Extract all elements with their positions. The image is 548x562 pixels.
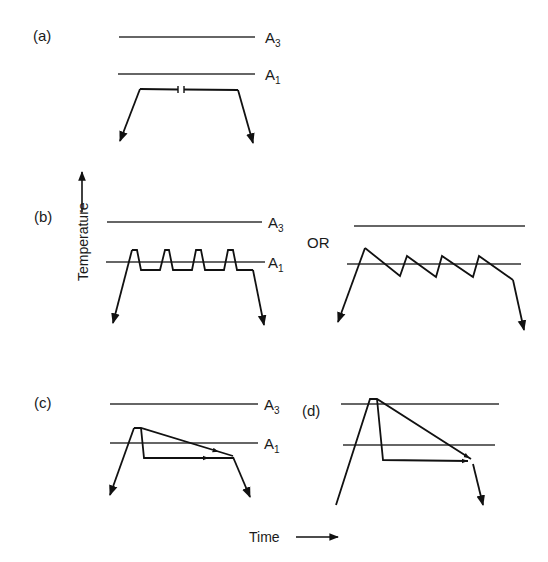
- slow-cool-path: [134, 428, 233, 456]
- panel-b-alt: [338, 226, 525, 330]
- temperature-label: Temperature: [75, 202, 91, 281]
- a3-label: A3: [268, 214, 284, 234]
- heating-arrow: [110, 428, 134, 495]
- cycling-path: [132, 250, 253, 270]
- or-label: OR: [307, 234, 330, 251]
- cooling-arrow: [233, 457, 250, 497]
- a1-label: A1: [268, 254, 284, 274]
- heating-arrow: [120, 89, 140, 141]
- hold-line-right: [184, 90, 238, 91]
- time-axis: Time: [249, 529, 338, 545]
- panel-d: (d): [302, 399, 499, 505]
- heat-treatment-diagram: (a) A3 A1 Temperature (b) A3 A1: [0, 0, 548, 562]
- cooling-arrow: [513, 280, 524, 330]
- svg-text:A3: A3: [265, 29, 281, 49]
- svg-text:A1: A1: [264, 435, 280, 455]
- panel-b: (b) A3 A1: [34, 208, 284, 325]
- temperature-axis: Temperature: [75, 172, 91, 281]
- a3-label: A3: [265, 29, 281, 49]
- a1-label: A1: [265, 66, 281, 86]
- panel-d-label: (d): [302, 402, 320, 419]
- heating-arrow: [113, 250, 132, 323]
- svg-text:A3: A3: [268, 214, 284, 234]
- svg-text:A3: A3: [264, 396, 280, 416]
- heating-arrow: [338, 248, 365, 322]
- panel-a: (a) A3 A1: [33, 27, 281, 143]
- hold-line-left: [140, 89, 178, 90]
- panel-c-label: (c): [34, 394, 52, 411]
- cooling-arrow: [473, 464, 483, 505]
- a3-label: A3: [264, 396, 280, 416]
- panel-b-label: (b): [34, 208, 52, 225]
- panel-c: (c) A3 A1: [34, 394, 280, 497]
- a1-label: A1: [264, 435, 280, 455]
- cooling-arrow: [253, 270, 264, 325]
- time-label: Time: [249, 529, 280, 545]
- svg-text:A1: A1: [265, 66, 281, 86]
- cooling-arrow: [238, 90, 253, 143]
- panel-a-label: (a): [33, 27, 51, 44]
- svg-text:A1: A1: [268, 254, 284, 274]
- heat-and-slow-cool-path: [336, 399, 471, 505]
